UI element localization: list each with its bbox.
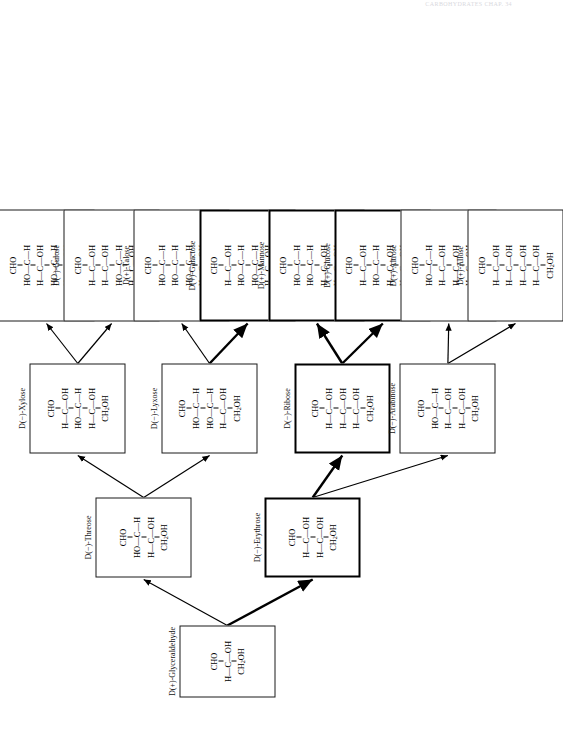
fischer-projection: CHOHO—C—HHO—C—HH—C—OHCH2OH [177, 387, 241, 428]
edge-lyxose-to-galactose [209, 323, 247, 363]
stereocenter-row: HO—C—H [157, 244, 166, 285]
carbon-atom: C [371, 259, 380, 265]
carbon-atom: C [531, 265, 540, 271]
stereocenter-row: HO—C—H [22, 244, 31, 285]
sugar-label-mannose: D(+)-Mannose [256, 241, 265, 289]
right-substituent: —H [236, 244, 245, 259]
stereocenter-row: HO—C—H [371, 244, 380, 285]
left-substituent: H— [443, 414, 452, 429]
stereocenter-row: HO—C—H [170, 244, 179, 285]
fischer-projection: CHOHO—C—HH—C—OHH—C—OHCH2OH [416, 387, 480, 428]
aldehyde-terminus: CHO [118, 528, 127, 546]
left-substituent: H— [437, 271, 446, 286]
sugar-label-allose: D(+)-Allose [455, 245, 464, 284]
stereocenter-row: HO—C—H [430, 387, 439, 428]
aldehyde-terminus: CHO [209, 652, 218, 670]
sugar-label-gulose: D(−)-Gulose [51, 245, 60, 286]
carbon-atom: C [491, 265, 500, 271]
sugar-box-ribose[interactable]: CHOH—C—OHH—C—OHH—C—OHCH2OH [294, 363, 390, 453]
sugar-label-xylose: D(−)-Xylose [17, 388, 26, 429]
left-substituent: HO— [170, 265, 179, 286]
fischer-projection: CHOH—C—OHH—C—OHH—C—OHH—C—OHCH2OH [477, 244, 554, 285]
sugar-label-glyceraldehyde: D(+)-Glyceraldehyde [167, 627, 176, 696]
sugar-box-glyceraldehyde[interactable]: CHOH—C—OHCH2OH [179, 625, 275, 697]
right-substituent: —H [73, 387, 82, 402]
fischer-projection: CHOHO—C—HH—C—OHCH2OH [118, 516, 168, 557]
stereocenter-row: HO—C—H [205, 387, 214, 428]
stereocenter-row: HO—C—H [424, 244, 433, 285]
sugar-box-xylose[interactable]: CHOH—C—OHHO—C—HH—C—OHCH2OH [29, 363, 125, 453]
sugar-box-allose[interactable]: CHOH—C—OHH—C—OHH—C—OHH—C—OHCH2OH [467, 209, 563, 321]
right-substituent: —OH [504, 244, 513, 265]
right-substituent: —H [191, 387, 200, 402]
carbon-atom: C [223, 661, 232, 667]
stereocenter-row: H—C—OH [60, 387, 69, 428]
stereocenter-row: H—C—OH [218, 387, 227, 428]
carbon-atom: C [22, 259, 31, 265]
right-substituent: —OH [35, 244, 44, 265]
aldehyde-terminus: CHO [344, 256, 353, 274]
right-substituent: —OH [87, 387, 96, 408]
stereocenter-row: H—C—OH [351, 387, 360, 428]
vertical-bond [360, 408, 365, 409]
left-substituent: H— [518, 271, 527, 286]
stereocenter-row: H—C—OH [443, 387, 452, 428]
left-substituent: HO— [191, 408, 200, 429]
carbon-atom: C [218, 408, 227, 414]
left-substituent: H— [60, 414, 69, 429]
stereocenter-row: H—C—OH [87, 244, 96, 285]
stereocenter-row: H—C—OH [315, 516, 324, 557]
stereocenter-row: HO—C—H [236, 244, 245, 285]
right-substituent: —H [430, 387, 439, 402]
hydroxymethyl-terminus: CH2OH [545, 252, 554, 279]
right-substituent: —OH [60, 387, 69, 408]
stereocenter-row: H—C—OH [301, 516, 310, 557]
right-substituent: —OH [491, 244, 500, 265]
carbon-atom: C [100, 265, 109, 271]
edge-glyceraldehyde-to-erythrose [227, 579, 312, 625]
right-substituent: —OH [338, 387, 347, 408]
aldehyde-terminus: CHO [8, 256, 17, 274]
carbon-atom: C [73, 402, 82, 408]
left-substituent: H— [223, 667, 232, 682]
carbon-atom: C [170, 259, 179, 265]
sugar-box-lyxose[interactable]: CHOHO—C—HHO—C—HH—C—OHCH2OH [161, 363, 257, 453]
stereocenter-row: H—C—OH [437, 244, 446, 285]
carbon-atom: C [223, 265, 232, 271]
carbon-atom: C [443, 408, 452, 414]
right-substituent: —OH [218, 387, 227, 408]
fischer-projection: CHOH—C—OHHO—C—HH—C—OHCH2OH [46, 387, 110, 428]
sugar-box-arabinose[interactable]: CHOHO—C—HH—C—OHH—C—OHCH2OH [399, 363, 495, 453]
stereocenter-row: HO—C—H [191, 387, 200, 428]
aldehyde-terminus: CHO [310, 399, 319, 417]
stereocenter-row: H—C—OH [146, 516, 155, 557]
edge-threose-to-lyxose [143, 455, 209, 497]
edge-threose-to-xylose [77, 455, 143, 497]
sugar-box-threose[interactable]: CHOHO—C—HH—C—OHCH2OH [95, 497, 191, 577]
stereocenter-row: H—C—OH [324, 387, 333, 428]
edge-erythrose-to-ribose [312, 455, 342, 497]
carbon-atom: C [457, 408, 466, 414]
aldehyde-terminus: CHO [46, 399, 55, 417]
vertical-bond [465, 408, 470, 409]
left-substituent: HO— [157, 265, 166, 286]
right-substituent: —OH [358, 244, 367, 265]
left-substituent: H— [223, 271, 232, 286]
sugar-label-glucose: D(+)-Glucose [322, 243, 331, 288]
edge-arabinose-to-altrose [447, 323, 448, 363]
hydroxymethyl-terminus: CH2OH [236, 648, 245, 675]
carbon-atom: C [437, 265, 446, 271]
carbon-atom: C [351, 408, 360, 414]
edge-erythrose-to-arabinose [312, 455, 447, 497]
carbon-atom: C [338, 408, 347, 414]
right-substituent: —OH [443, 387, 452, 408]
aldehyde-terminus: CHO [287, 528, 296, 546]
right-substituent: —OH [301, 516, 310, 537]
aldehyde-terminus: CHO [177, 399, 186, 417]
sugar-label-arabinose: D(−)-Arabinose [387, 382, 396, 433]
stereocenter-row: HO—C—H [73, 387, 82, 428]
left-substituent: HO— [424, 265, 433, 286]
stereocenter-row: H—C—OH [100, 244, 109, 285]
sugar-box-erythrose[interactable]: CHOH—C—OHH—C—OHCH2OH [264, 497, 360, 577]
carbon-chain: CHOH—C—OHCH2OH [209, 640, 246, 681]
